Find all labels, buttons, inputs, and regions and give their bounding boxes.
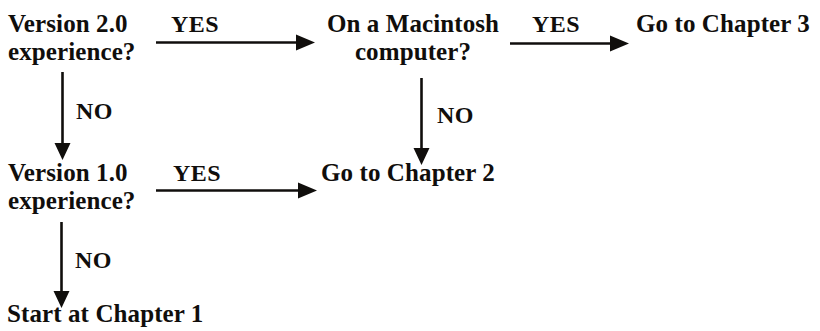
node-version-2-question[interactable]: Version 2.0 experience? [8, 10, 135, 66]
node-version-2-line1: Version 2.0 [8, 10, 128, 37]
edge-label-v1-yes: YES [173, 161, 221, 185]
flowchart-canvas: On a Macintosh --> Version 1.0 --> Go to… [0, 0, 820, 331]
node-macintosh-question[interactable]: On a Macintosh computer? [320, 10, 506, 66]
node-version-2-line2: experience? [8, 38, 135, 66]
edge-label-v2-yes: YES [171, 12, 219, 36]
arrow-v1-no-to-ch1 [54, 222, 70, 308]
node-goto-chapter-3[interactable]: Go to Chapter 3 [636, 10, 810, 38]
edge-label-mac-no: NO [437, 103, 474, 127]
arrow-v2-no-to-v1 [55, 72, 71, 160]
arrow-mac-yes-to-ch3 [510, 36, 629, 52]
node-goto-chapter-3-label: Go to Chapter 3 [636, 10, 810, 37]
node-version-1-question[interactable]: Version 1.0 experience? [8, 159, 135, 215]
node-version-1-line2: experience? [8, 187, 135, 215]
edge-label-v1-no: NO [75, 248, 112, 272]
node-goto-chapter-2-label: Go to Chapter 2 [321, 159, 495, 186]
node-macintosh-line2: computer? [320, 38, 506, 66]
node-goto-chapter-2[interactable]: Go to Chapter 2 [321, 159, 495, 187]
node-start-at-chapter-1[interactable]: Start at Chapter 1 [7, 300, 203, 328]
node-version-1-line1: Version 1.0 [8, 159, 128, 186]
node-start-at-chapter-1-label: Start at Chapter 1 [7, 300, 203, 327]
edge-label-v2-no: NO [76, 99, 113, 123]
node-macintosh-line1: On a Macintosh [327, 10, 499, 37]
edge-label-mac-yes: YES [532, 12, 580, 36]
arrow-mac-no-to-ch2 [414, 78, 430, 165]
